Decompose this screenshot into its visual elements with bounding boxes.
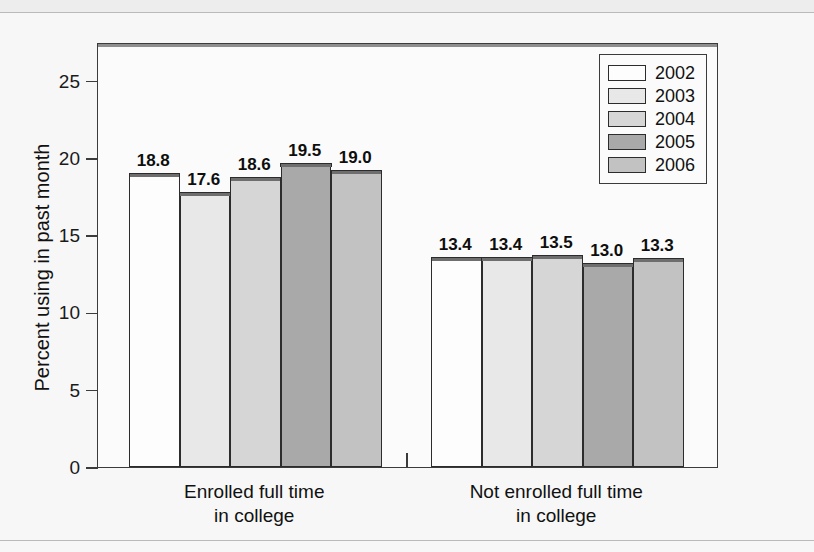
bar-value-label: 13.3 bbox=[632, 236, 683, 256]
bar-value-label: 19.0 bbox=[330, 148, 381, 168]
bar-value-label: 17.6 bbox=[179, 170, 230, 190]
bar-top-cap bbox=[532, 255, 584, 259]
legend-item[interactable]: 2006 bbox=[608, 154, 698, 176]
legend-label: 2004 bbox=[655, 110, 695, 128]
bar-top-cap bbox=[179, 192, 231, 196]
bar-top-cap bbox=[633, 258, 685, 262]
legend-swatch bbox=[608, 134, 646, 150]
legend-label: 2005 bbox=[655, 133, 695, 151]
y-axis-tick-label: 25 bbox=[34, 72, 80, 91]
bar[interactable] bbox=[583, 266, 634, 467]
bar-top-cap bbox=[230, 177, 282, 181]
y-axis-title: Percent using in past month bbox=[31, 78, 54, 458]
x-axis-group-label-line: in college bbox=[396, 504, 716, 528]
chart-legend[interactable]: 20022003200420052006 bbox=[599, 54, 707, 184]
bar-top-cap bbox=[431, 257, 483, 261]
bar-top-cap bbox=[331, 170, 383, 174]
bar[interactable] bbox=[180, 195, 231, 467]
bar-value-label: 18.8 bbox=[128, 151, 179, 171]
legend-label: 2002 bbox=[655, 64, 695, 82]
bar[interactable] bbox=[230, 180, 281, 467]
page-top-band bbox=[0, 0, 814, 12]
legend-swatch bbox=[608, 111, 646, 127]
y-axis-tick-label: 20 bbox=[34, 149, 80, 168]
legend-item[interactable]: 2002 bbox=[608, 62, 698, 84]
bar-value-label: 13.4 bbox=[481, 235, 532, 255]
y-axis-tick-label: 10 bbox=[34, 303, 80, 322]
y-axis-tick-label: 5 bbox=[34, 381, 80, 400]
bar[interactable] bbox=[633, 261, 684, 467]
bar[interactable] bbox=[129, 176, 180, 467]
bar-value-label: 13.0 bbox=[582, 241, 633, 261]
bar-top-cap bbox=[582, 263, 634, 267]
legend-label: 2003 bbox=[655, 87, 695, 105]
legend-item[interactable]: 2005 bbox=[608, 131, 698, 153]
bar[interactable] bbox=[281, 166, 332, 467]
page-top-rule bbox=[0, 12, 814, 13]
bar-value-label: 13.4 bbox=[430, 235, 481, 255]
x-axis-group-label: Enrolled full timein college bbox=[94, 480, 414, 528]
bar[interactable] bbox=[331, 173, 382, 467]
x-axis-group-label: Not enrolled full timein college bbox=[396, 480, 716, 528]
chart-page: Percent using in past month 0510152025 1… bbox=[0, 0, 814, 552]
legend-item[interactable]: 2004 bbox=[608, 108, 698, 130]
bar-value-label: 19.5 bbox=[280, 141, 331, 161]
bar[interactable] bbox=[482, 260, 533, 467]
x-axis-group-label-line: Enrolled full time bbox=[94, 480, 414, 504]
legend-swatch bbox=[608, 157, 646, 173]
bar[interactable] bbox=[431, 260, 482, 467]
x-axis-group-label-line: in college bbox=[94, 504, 414, 528]
group-separator-tick bbox=[406, 453, 408, 467]
bar-top-cap bbox=[481, 257, 533, 261]
bar[interactable] bbox=[532, 258, 583, 467]
legend-swatch bbox=[608, 88, 646, 104]
y-axis-tick-label: 0 bbox=[34, 458, 80, 477]
legend-label: 2006 bbox=[655, 156, 695, 174]
legend-item[interactable]: 2003 bbox=[608, 85, 698, 107]
x-axis-group-label-line: Not enrolled full time bbox=[396, 480, 716, 504]
page-bottom-rule bbox=[0, 540, 814, 541]
legend-swatch bbox=[608, 65, 646, 81]
bar-top-cap bbox=[280, 163, 332, 167]
bar-top-cap bbox=[129, 173, 181, 177]
bar-value-label: 18.6 bbox=[229, 155, 280, 175]
bar-value-label: 13.5 bbox=[531, 233, 582, 253]
y-axis-tick-label: 15 bbox=[34, 226, 80, 245]
